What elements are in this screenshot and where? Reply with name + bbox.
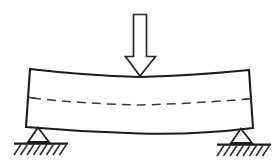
diagram-canvas: Simply supported beam deflection under c…	[0, 0, 280, 167]
left-pinned-support	[14, 128, 68, 156]
left-ground-hatching	[14, 144, 67, 155]
downward-point-load-arrow	[126, 15, 156, 77]
beam-group	[26, 69, 253, 134]
neutral-axis-left-tick	[29, 98, 36, 99]
right-ground-hatching	[217, 145, 270, 156]
neutral-axis-right-tick	[245, 99, 252, 100]
right-pinned-support	[217, 129, 271, 157]
load-arrow-group	[126, 15, 156, 77]
beam-deflection-diagram: Simply supported beam deflection under c…	[0, 0, 280, 167]
